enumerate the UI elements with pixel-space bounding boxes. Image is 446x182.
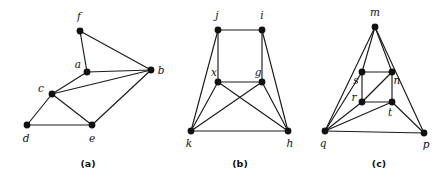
graph-figure: fabcde(a)jixgkh(b)msnrtqp(c) — [0, 0, 446, 182]
graph-node-q — [322, 128, 329, 135]
graph-node-label-c: c — [38, 82, 44, 94]
graph-node-label-b: b — [158, 64, 165, 76]
graph-node-j — [215, 27, 222, 34]
graph-node-label-s: s — [353, 74, 359, 86]
panel-b-caption: (b) — [232, 158, 247, 169]
graph-node-t — [389, 99, 396, 106]
figure-background — [0, 0, 446, 182]
graph-node-s — [359, 69, 366, 76]
graph-node-b — [148, 67, 155, 74]
graph-node-p — [421, 130, 428, 137]
graph-node-label-g: g — [255, 66, 262, 78]
graph-node-label-k: k — [186, 137, 192, 149]
graph-node-r — [359, 99, 366, 106]
graph-node-m — [372, 24, 379, 31]
graph-node-i — [259, 27, 266, 34]
graph-node-label-d: d — [23, 132, 30, 144]
graph-node-label-x: x — [211, 66, 217, 78]
graph-node-label-h: h — [287, 137, 294, 149]
graph-node-label-q: q — [320, 137, 327, 149]
panel-c-caption: (c) — [372, 158, 386, 169]
graph-node-label-n: n — [394, 74, 401, 86]
graph-node-g — [259, 79, 266, 86]
graph-node-label-p: p — [423, 138, 430, 150]
graph-node-e — [89, 122, 96, 129]
graph-node-k — [188, 128, 195, 135]
graph-node-x — [215, 79, 222, 86]
graph-node-label-a: a — [75, 58, 81, 70]
graph-node-d — [24, 122, 31, 129]
graph-node-h — [285, 128, 292, 135]
graph-node-c — [49, 91, 56, 98]
graph-node-a — [84, 69, 91, 76]
graph-node-label-i: i — [260, 9, 263, 21]
graph-node-label-e: e — [89, 132, 95, 144]
graph-node-label-m: m — [370, 6, 380, 18]
graph-node-f — [77, 28, 84, 35]
panel-a-caption: (a) — [80, 158, 95, 169]
